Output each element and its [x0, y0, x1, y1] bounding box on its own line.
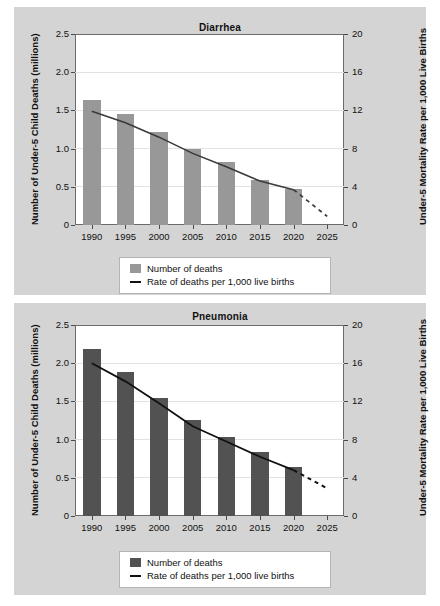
x-tick-mark: [92, 516, 93, 520]
y2-tick-mark: [344, 110, 348, 111]
y2-tick-label: 8: [352, 144, 357, 154]
legend-item-bars: Number of deaths: [130, 556, 320, 569]
x-tick-mark: [260, 225, 261, 229]
plot-area-diarrhea: [75, 34, 344, 225]
chart-panel-diarrhea: Diarrhea Number of Under-5 Child Deaths …: [14, 7, 426, 295]
y2-tick-label: 4: [352, 182, 357, 192]
y2-tick-mark: [344, 149, 348, 150]
y2-axis-title-pneumonia: Under-5 Mortality Rate per 1,000 Live Bi…: [418, 319, 428, 516]
y2-tick-label: 20: [352, 320, 363, 330]
y-tick-label: 1.5: [41, 105, 69, 115]
y-tick-label: 2.0: [41, 67, 69, 77]
x-tick-mark: [294, 516, 295, 520]
x-tick-mark: [260, 516, 261, 520]
line-series-pneumonia: [75, 325, 344, 516]
y-tick-mark: [71, 478, 75, 479]
x-tick-label: 2025: [307, 232, 347, 242]
x-tick-mark: [327, 516, 328, 520]
y2-tick-label: 4: [352, 473, 357, 483]
x-tick-mark: [193, 225, 194, 229]
y-tick-mark: [71, 34, 75, 35]
legend-item-bars: Number of deaths: [130, 262, 320, 275]
legend-bar-label: Number of deaths: [147, 263, 223, 274]
chart-panel-pneumonia: Pneumonia Number of Under-5 Child Deaths…: [14, 303, 426, 595]
y-tick-mark: [71, 325, 75, 326]
y-tick-label: 0.5: [41, 473, 69, 483]
x-tick-mark: [125, 516, 126, 520]
x-tick-mark: [327, 225, 328, 229]
y2-axis-title-diarrhea: Under-5 Mortality Rate per 1,000 Live Bi…: [418, 28, 428, 225]
x-tick-mark: [193, 516, 194, 520]
y2-tick-mark: [344, 325, 348, 326]
legend-pneumonia: Number of deaths Rate of deaths per 1,00…: [119, 551, 331, 588]
x-tick-mark: [294, 225, 295, 229]
y2-tick-label: 12: [352, 105, 363, 115]
legend-bar-swatch-icon: [130, 264, 141, 273]
x-tick-mark: [125, 225, 126, 229]
y-tick-label: 2.0: [41, 358, 69, 368]
y-tick-label: 0.5: [41, 182, 69, 192]
legend-line-swatch-icon: [130, 575, 141, 577]
legend-bar-label: Number of deaths: [147, 557, 223, 568]
y2-tick-mark: [344, 478, 348, 479]
y2-tick-label: 16: [352, 358, 363, 368]
legend-bar-swatch-icon: [130, 558, 141, 567]
legend-item-line: Rate of deaths per 1,000 live births: [130, 569, 320, 582]
legend-line-swatch-icon: [130, 281, 141, 283]
y-tick-mark: [71, 440, 75, 441]
x-tick-mark: [226, 225, 227, 229]
y-tick-label: 2.5: [41, 320, 69, 330]
y2-tick-mark: [344, 516, 348, 517]
legend-diarrhea: Number of deaths Rate of deaths per 1,00…: [119, 257, 331, 294]
y-axis-title-pneumonia: Number of Under-5 Child Deaths (millions…: [30, 324, 40, 516]
y2-tick-mark: [344, 440, 348, 441]
y2-tick-mark: [344, 401, 348, 402]
x-tick-mark: [159, 516, 160, 520]
legend-item-line: Rate of deaths per 1,000 live births: [130, 275, 320, 288]
y-tick-mark: [71, 187, 75, 188]
y-tick-mark: [71, 516, 75, 517]
chart-title-diarrhea: Diarrhea: [14, 22, 426, 33]
y-tick-label: 1.0: [41, 144, 69, 154]
y-tick-label: 1.5: [41, 396, 69, 406]
y2-tick-label: 0: [352, 220, 357, 230]
y-tick-mark: [71, 110, 75, 111]
y2-tick-mark: [344, 72, 348, 73]
y-tick-mark: [71, 149, 75, 150]
y-tick-label: 1.0: [41, 435, 69, 445]
y-tick-mark: [71, 72, 75, 73]
chart-title-pneumonia: Pneumonia: [14, 311, 426, 322]
y-axis-title-diarrhea: Number of Under-5 Child Deaths (millions…: [30, 33, 40, 225]
y2-tick-label: 8: [352, 435, 357, 445]
y-tick-mark: [71, 225, 75, 226]
y2-tick-mark: [344, 363, 348, 364]
x-tick-mark: [226, 516, 227, 520]
y-tick-label: 0: [41, 511, 69, 521]
y-tick-label: 0: [41, 220, 69, 230]
y2-tick-label: 0: [352, 511, 357, 521]
line-series-diarrhea: [75, 34, 344, 225]
y2-tick-label: 16: [352, 67, 363, 77]
legend-line-label: Rate of deaths per 1,000 live births: [147, 276, 294, 287]
y2-tick-mark: [344, 34, 348, 35]
figure-root: Diarrhea Number of Under-5 Child Deaths …: [0, 0, 440, 606]
plot-area-pneumonia: [75, 325, 344, 516]
y-tick-label: 2.5: [41, 29, 69, 39]
x-tick-label: 2025: [307, 523, 347, 533]
y-tick-mark: [71, 363, 75, 364]
y2-tick-label: 12: [352, 396, 363, 406]
y2-tick-mark: [344, 225, 348, 226]
y-tick-mark: [71, 401, 75, 402]
x-tick-mark: [92, 225, 93, 229]
y2-tick-label: 20: [352, 29, 363, 39]
x-tick-mark: [159, 225, 160, 229]
y2-tick-mark: [344, 187, 348, 188]
legend-line-label: Rate of deaths per 1,000 live births: [147, 570, 294, 581]
